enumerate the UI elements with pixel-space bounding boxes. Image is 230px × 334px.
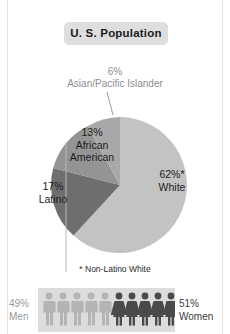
label-latino-name: Latino	[22, 193, 84, 206]
male-figure-icon	[99, 293, 111, 326]
male-figures	[43, 293, 111, 326]
pie-chart	[0, 0, 230, 334]
gender-figures-svg	[38, 288, 175, 332]
gender-men-text: 49% Men	[9, 298, 29, 323]
label-african-american: 13% African American	[55, 126, 129, 164]
label-white-pct: 62%*	[142, 168, 202, 181]
label-latino-pct: 17%	[22, 180, 84, 193]
callout-asian-pacific-islander-name: Asian/Pacific Islander	[18, 78, 212, 90]
gender-women-pct: 51%	[179, 298, 213, 311]
gender-pictogram: 49% Men 51% Women	[0, 288, 230, 334]
female-figure-icon	[111, 293, 127, 326]
gender-men-label: Men	[9, 311, 29, 324]
label-white-name: White	[142, 181, 202, 194]
female-figure-icon	[150, 293, 166, 326]
gender-women-text: 51% Women	[179, 298, 213, 323]
female-figure-icon	[137, 293, 153, 326]
male-figure-icon	[71, 293, 83, 326]
label-white: 62%* White	[142, 168, 202, 193]
footnote: * Non-Latino White	[0, 264, 230, 274]
male-figure-icon	[85, 293, 97, 326]
label-african-american-name2: American	[55, 151, 129, 164]
female-figures	[111, 293, 175, 326]
female-figure-icon	[163, 293, 175, 326]
us-population-infographic: U. S. Population 6% Asian/Pacific Island…	[0, 0, 230, 334]
pie-chart-svg	[0, 0, 230, 334]
callout-asian-pacific-islander: 6% Asian/Pacific Islander	[18, 66, 212, 90]
label-african-american-name: African	[55, 139, 129, 152]
male-figure-icon	[43, 293, 55, 326]
label-latino: 17% Latino	[22, 180, 84, 205]
leader-line-asian-pacific-islander	[107, 92, 113, 115]
gender-men-pct: 49%	[9, 298, 29, 311]
gender-women-label: Women	[179, 311, 213, 324]
callout-asian-pacific-islander-pct: 6%	[18, 66, 212, 78]
female-figure-icon	[124, 293, 140, 326]
label-african-american-pct: 13%	[55, 126, 129, 139]
male-figure-icon	[57, 293, 69, 326]
